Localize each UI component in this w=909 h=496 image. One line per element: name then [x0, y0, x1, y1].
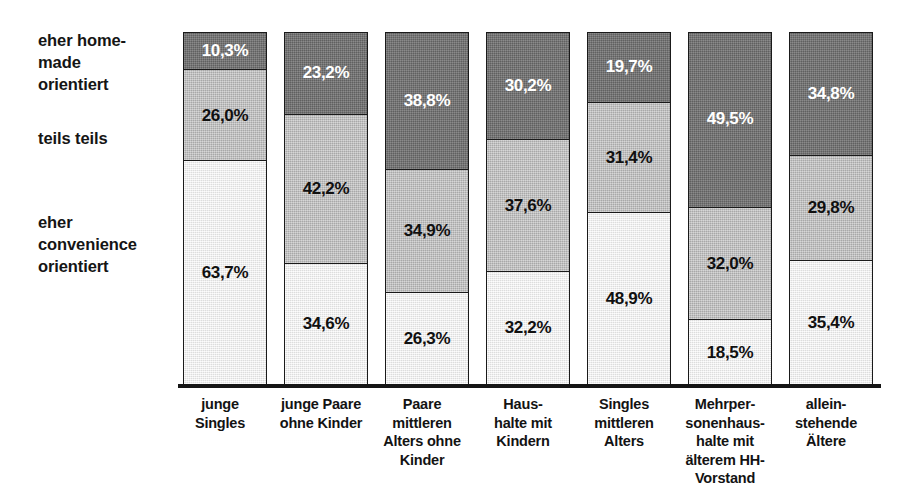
bar-column[interactable]: 23,2%42,2%34,6%	[284, 32, 368, 385]
bar-column[interactable]: 38,8%34,9%26,3%	[385, 32, 469, 385]
bar-segment[interactable]: 32,0%	[689, 207, 771, 319]
bar-segment-value: 32,2%	[505, 319, 552, 336]
bar-segment[interactable]: 26,0%	[184, 69, 266, 160]
bar-segment[interactable]: 48,9%	[588, 212, 670, 384]
bar-column[interactable]: 19,7%31,4%48,9%	[587, 32, 671, 385]
bar-segment-value: 19,7%	[606, 58, 653, 75]
bar-segment[interactable]: 30,2%	[487, 33, 569, 139]
bar-column[interactable]: 30,2%37,6%32,2%	[486, 32, 570, 385]
legend-label-homemade: eher home- made orientiert	[38, 30, 188, 95]
bar-stack: 10,3%26,0%63,7%	[183, 32, 267, 385]
bar-stack: 34,8%29,8%35,4%	[789, 32, 873, 385]
bar-stack: 30,2%37,6%32,2%	[486, 32, 570, 385]
bar-segment[interactable]: 49,5%	[689, 33, 771, 207]
bar-segment[interactable]: 35,4%	[790, 260, 872, 384]
bar-segment[interactable]: 38,8%	[386, 33, 468, 169]
x-axis-tick-label: junge Paare ohne Kinder	[269, 395, 373, 432]
bar-stack: 19,7%31,4%48,9%	[587, 32, 671, 385]
bar-segment-value: 26,3%	[404, 330, 451, 347]
x-axis-tick-label: junge Singles	[168, 395, 272, 432]
bar-segment-value: 34,8%	[808, 85, 855, 102]
bar-stack: 38,8%34,9%26,3%	[385, 32, 469, 385]
x-axis-tick-label: Paare mittleren Alters ohne Kinder	[370, 395, 474, 469]
bar-stack: 49,5%32,0%18,5%	[688, 32, 772, 385]
x-axis-tick-label: Haus- halte mit Kindern	[471, 395, 575, 451]
bar-segment-value: 38,8%	[404, 92, 451, 109]
bar-segment[interactable]: 18,5%	[689, 319, 771, 384]
bar-segment[interactable]: 29,8%	[790, 155, 872, 260]
x-axis-tick-label: Singles mittleren Alters	[572, 395, 676, 451]
bar-stack: 23,2%42,2%34,6%	[284, 32, 368, 385]
bar-segment[interactable]: 19,7%	[588, 33, 670, 102]
bar-segment-value: 26,0%	[202, 107, 249, 124]
bar-segment-value: 30,2%	[505, 77, 552, 94]
bar-segment-value: 32,0%	[707, 255, 754, 272]
bar-column[interactable]: 34,8%29,8%35,4%	[789, 32, 873, 385]
bar-segment[interactable]: 34,6%	[285, 263, 367, 384]
bar-segment[interactable]: 26,3%	[386, 292, 468, 384]
bar-segment-value: 34,6%	[303, 315, 350, 332]
x-axis-tick-label: allein- stehende Ältere	[774, 395, 878, 451]
x-axis-tick-label: Mehrper- sonenhaus- halte mit älterem HH…	[673, 395, 777, 488]
bar-column[interactable]: 10,3%26,0%63,7%	[183, 32, 267, 385]
bar-segment-value: 35,4%	[808, 314, 855, 331]
bar-segment-value: 10,3%	[202, 42, 249, 59]
bar-segment[interactable]: 63,7%	[184, 160, 266, 384]
legend-label-teils-teils: teils teils	[38, 128, 188, 150]
bar-segment[interactable]: 34,8%	[790, 33, 872, 155]
bar-segment-value: 23,2%	[303, 64, 350, 81]
bar-segment[interactable]: 31,4%	[588, 102, 670, 212]
bar-segment-value: 49,5%	[707, 110, 754, 127]
bar-segment[interactable]: 34,9%	[386, 169, 468, 291]
x-axis-tick-labels: junge Singlesjunge Paare ohne KinderPaar…	[168, 395, 898, 495]
bar-segment-value: 29,8%	[808, 199, 855, 216]
bar-segment-value: 37,6%	[505, 197, 552, 214]
bar-segment-value: 31,4%	[606, 149, 653, 166]
bar-segment[interactable]: 10,3%	[184, 33, 266, 69]
bar-segment[interactable]: 37,6%	[487, 139, 569, 271]
x-axis-line	[178, 384, 881, 388]
bar-column[interactable]: 49,5%32,0%18,5%	[688, 32, 772, 385]
bar-segment-value: 48,9%	[606, 290, 653, 307]
legend-label-convenience: eher convenience orientiert	[38, 212, 198, 277]
bar-segment-value: 63,7%	[202, 264, 249, 281]
bar-segment-value: 18,5%	[707, 344, 754, 361]
stacked-bar-chart: eher home- made orientiert teils teils e…	[0, 0, 909, 496]
bar-segment[interactable]: 23,2%	[285, 33, 367, 114]
bar-segment[interactable]: 42,2%	[285, 114, 367, 262]
bar-segment[interactable]: 32,2%	[487, 271, 569, 384]
bar-segment-value: 34,9%	[404, 222, 451, 239]
bar-segment-value: 42,2%	[303, 180, 350, 197]
plot-area: 10,3%26,0%63,7%23,2%42,2%34,6%38,8%34,9%…	[183, 32, 873, 385]
